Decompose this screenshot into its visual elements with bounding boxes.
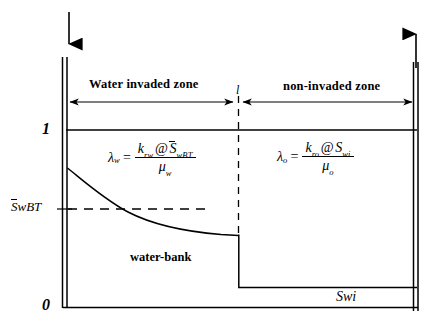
saturation-profile-figure: Water invaded zone non-invaded zone l 1 … <box>0 0 441 330</box>
water-formula-equals: = <box>123 151 131 165</box>
mu-o-subscript: o <box>329 168 333 177</box>
swbt-axis-label: SwBT <box>11 199 41 213</box>
water-formula-denominator: μw <box>156 158 175 174</box>
oil-mobility-formula: λo = kro@Swi μo <box>277 141 355 173</box>
lambda-w-subscript: w <box>114 156 120 165</box>
axis-label-zero: 0 <box>42 297 50 313</box>
swi-plateau-label: Swi <box>336 290 356 304</box>
axis-label-one: 1 <box>42 121 50 137</box>
shock-front-and-swi-plateau <box>239 235 417 288</box>
mu-o-symbol: μ <box>322 159 329 173</box>
mu-w-subscript: w <box>166 169 172 178</box>
at-symbol-water: @ <box>155 142 168 156</box>
swbt-numerator-symbol: S <box>169 141 176 156</box>
non-invaded-zone-label: non-invaded zone <box>283 80 380 93</box>
swbt-symbol: S <box>11 199 18 213</box>
swbt-numerator-subscript: wBT <box>176 151 192 160</box>
water-mobility-formula: λw = krw@SwBT μw <box>108 141 197 174</box>
front-distance-label: l <box>236 84 239 96</box>
water-formula-numerator: krw@SwBT <box>135 141 196 157</box>
diagram-canvas <box>0 0 441 330</box>
water-invaded-zone-label: Water invaded zone <box>89 78 199 91</box>
lambda-o-subscript: o <box>283 156 287 165</box>
swi-symbol: S <box>336 289 343 304</box>
right-wellbore <box>414 62 419 311</box>
oil-formula-equals: = <box>291 150 299 164</box>
kro-subscript: ro <box>312 150 320 159</box>
swi-numerator-symbol: S <box>335 141 342 155</box>
water-bank-curve <box>68 168 239 236</box>
at-symbol-oil: @ <box>321 141 334 155</box>
left-wellbore <box>63 57 68 308</box>
water-bank-label: water-bank <box>130 251 191 264</box>
water-formula-fraction: krw@SwBT μw <box>135 141 196 174</box>
krw-subscript: rw <box>144 151 153 160</box>
oil-formula-numerator: kro@Swi <box>302 141 353 156</box>
mu-w-symbol: μ <box>159 160 166 174</box>
swi-numerator-subscript: wi <box>342 150 350 159</box>
swi-subscript: wi <box>343 289 356 304</box>
swbt-subscript: wBT <box>18 199 42 214</box>
oil-formula-denominator: μo <box>319 157 336 173</box>
oil-formula-fraction: kro@Swi μo <box>302 141 353 173</box>
